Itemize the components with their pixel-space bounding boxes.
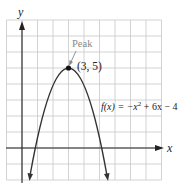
vertex-point [66,65,71,70]
y-axis-arrow-icon [19,21,25,30]
function-label-prefix: f(x) = −x [101,101,138,113]
x-axis-label: x [166,141,173,155]
function-graph: y x Peak (3, 5) f(x) = −x2 + 6x − 4 [0,0,182,183]
function-label: f(x) = −x2 + 6x − 4 [101,100,178,113]
y-axis-label: y [17,5,24,19]
x-axis-arrow-icon [155,145,164,151]
peak-arrow-icon [69,60,73,66]
vertex-coords-label: (3, 5) [77,60,102,73]
peak-label: Peak [72,38,93,49]
function-label-suffix: + 6x − 4 [141,101,177,112]
